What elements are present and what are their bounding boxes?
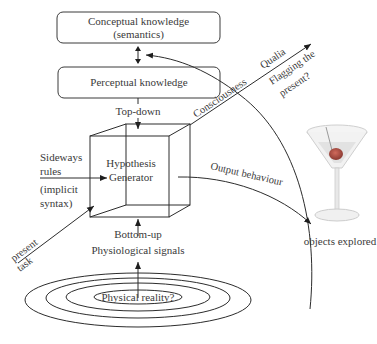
implicit-syntax-line1: (implicit <box>40 183 78 196</box>
objects-explored-label: objects explored <box>304 235 377 247</box>
perceptual-knowledge-box: Perceptual knowledge <box>58 67 220 98</box>
hypothesis-label-line1: Hypothesis <box>106 157 156 169</box>
top-down-label: Top-down <box>115 105 161 117</box>
physical-reality-label: Physical reality? <box>101 291 174 303</box>
perceptual-knowledge-label: Perceptual knowledge <box>90 76 188 88</box>
arrow-up-icon <box>135 46 141 51</box>
hypothesis-generator-cube: Hypothesis Generator <box>90 124 190 217</box>
physiological-signals-label: Physiological signals <box>91 244 184 256</box>
arrow-down-icon <box>135 59 141 64</box>
diagram-canvas: Conceptual knowledge (semantics) Percept… <box>0 0 377 344</box>
sideways-label-line1: Sideways <box>40 151 82 163</box>
bidirectional-arrow <box>135 46 141 64</box>
conceptual-knowledge-box: Conceptual knowledge (semantics) <box>57 12 220 43</box>
output-behaviour-arrow <box>178 177 311 224</box>
output-behaviour-label: Output behaviour <box>210 160 285 187</box>
present-task-arrow <box>18 206 94 263</box>
hypothesis-label-line2: Generator <box>109 171 153 183</box>
sideways-label-line2: rules <box>40 165 61 177</box>
conceptual-knowledge-title: Conceptual knowledge <box>88 15 189 27</box>
martini-glass-icon <box>307 125 367 221</box>
bottom-up-label: Bottom-up <box>114 228 162 240</box>
implicit-syntax-line2: syntax) <box>40 197 73 210</box>
conceptual-knowledge-subtitle: (semantics) <box>113 28 164 41</box>
